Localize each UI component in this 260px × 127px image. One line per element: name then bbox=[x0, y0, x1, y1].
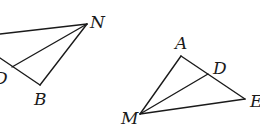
geometry-diagram: N D B A D E M bbox=[0, 0, 260, 127]
edge-top-to-N bbox=[0, 24, 87, 34]
edge-A-M bbox=[140, 56, 181, 114]
label-E: E bbox=[249, 91, 260, 111]
label-D-left: D bbox=[0, 68, 8, 88]
edge-N-B bbox=[40, 24, 87, 85]
label-N: N bbox=[89, 12, 106, 32]
label-A: A bbox=[173, 33, 187, 53]
right-figure: A D E M bbox=[120, 33, 260, 127]
left-figure: N D B bbox=[0, 12, 106, 109]
label-M: M bbox=[120, 108, 139, 127]
edge-M-D bbox=[140, 74, 208, 114]
edge-N-D bbox=[12, 24, 87, 67]
edge-M-E bbox=[140, 99, 245, 114]
label-D-right: D bbox=[212, 58, 227, 78]
label-B: B bbox=[33, 89, 47, 109]
